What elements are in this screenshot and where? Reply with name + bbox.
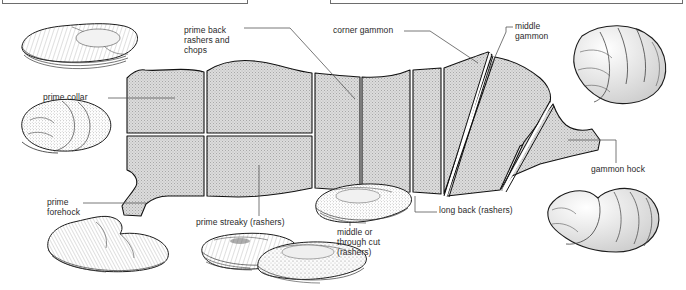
figure-canvas: prime back rashers and chops corner gamm… [0, 0, 686, 290]
leader-long-back [415, 196, 437, 212]
label-prime-streaky: prime streaky (rashers) [196, 218, 285, 228]
cut-prime-collar[interactable] [127, 69, 204, 133]
cut-long-back[interactable] [315, 73, 360, 190]
cut-prime-streaky[interactable] [207, 136, 312, 197]
illustration-middle-cut [316, 184, 412, 223]
label-prime-back: prime back rashers and chops [184, 26, 229, 55]
label-gammon-hock: gammon hock [591, 165, 645, 175]
label-corner-gammon: corner gammon [333, 26, 393, 36]
leader-corner-gammon [404, 31, 478, 63]
label-prime-collar: prime collar [43, 93, 88, 103]
illustration-prime-collar [22, 99, 111, 153]
label-prime-forehock: prime forehock [47, 198, 80, 218]
cut-prime-forehock[interactable] [122, 136, 204, 216]
illustration-middle-gammon [574, 26, 666, 104]
illustration-gammon-hock [548, 188, 659, 252]
illustration-prime-forehock [48, 216, 169, 272]
label-long-back: long back (rashers) [439, 206, 513, 216]
illustration-prime-back [22, 24, 138, 69]
cut-slice-panel[interactable] [413, 68, 441, 194]
label-middle-gammon: middle gammon [515, 22, 548, 42]
label-middle-cut: middle or through cut (rashers) [337, 228, 380, 257]
cut-long-back-extension[interactable] [362, 70, 410, 192]
cut-prime-back[interactable] [207, 61, 312, 133]
